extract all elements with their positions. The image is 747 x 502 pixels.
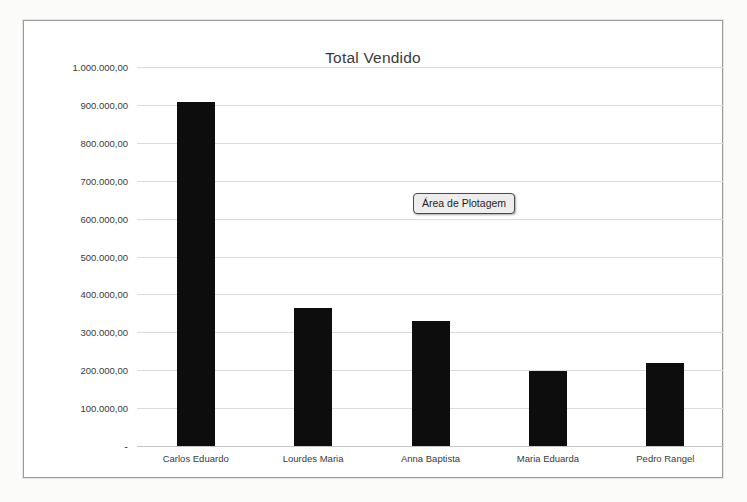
bar-slot: [607, 67, 724, 446]
y-axis-tick-label: 900.000,00: [80, 99, 128, 110]
y-axis-tick-label: 300.000,00: [80, 327, 128, 338]
bar[interactable]: [177, 102, 215, 446]
x-axis-tick-labels: Carlos EduardoLourdes MariaAnna Baptista…: [137, 453, 724, 464]
bar[interactable]: [646, 363, 684, 446]
y-axis-tick-label: 600.000,00: [80, 213, 128, 224]
bar-slot: [489, 67, 606, 446]
y-axis-tick-label: 800.000,00: [80, 137, 128, 148]
x-axis-tick-label: Maria Eduarda: [489, 453, 606, 464]
chart-frame[interactable]: Total Vendido 1.000.000,00900.000,00800.…: [23, 20, 723, 478]
x-axis-tick-label: Carlos Eduardo: [137, 453, 254, 464]
y-axis-tick-label: -: [124, 440, 128, 452]
plot-area-tooltip: Área de Plotagem: [413, 193, 515, 214]
bar-slot: [254, 67, 371, 446]
bar-slot: [372, 67, 489, 446]
x-axis-tick-label: Pedro Rangel: [607, 453, 724, 464]
x-axis-tick-label: Lourdes Maria: [254, 453, 371, 464]
y-axis-tick-label: 1.000.000,00: [73, 62, 128, 73]
plot-area[interactable]: 1.000.000,00900.000,00800.000,00700.000,…: [137, 67, 724, 446]
bar[interactable]: [529, 371, 567, 446]
y-axis-tick-label: 400.000,00: [80, 289, 128, 300]
y-axis-tick-label: 100.000,00: [80, 403, 128, 414]
y-axis-tick-label: 200.000,00: [80, 365, 128, 376]
bar-slot: [137, 67, 254, 446]
bar-series[interactable]: [137, 67, 724, 446]
bar[interactable]: [412, 321, 450, 446]
page-background: Total Vendido 1.000.000,00900.000,00800.…: [0, 0, 747, 502]
bar[interactable]: [294, 308, 332, 446]
y-axis-tick-label: 700.000,00: [80, 175, 128, 186]
gridline: [137, 446, 724, 447]
x-axis-tick-label: Anna Baptista: [372, 453, 489, 464]
y-axis-tick-label: 500.000,00: [80, 251, 128, 262]
chart-title[interactable]: Total Vendido: [24, 49, 722, 67]
